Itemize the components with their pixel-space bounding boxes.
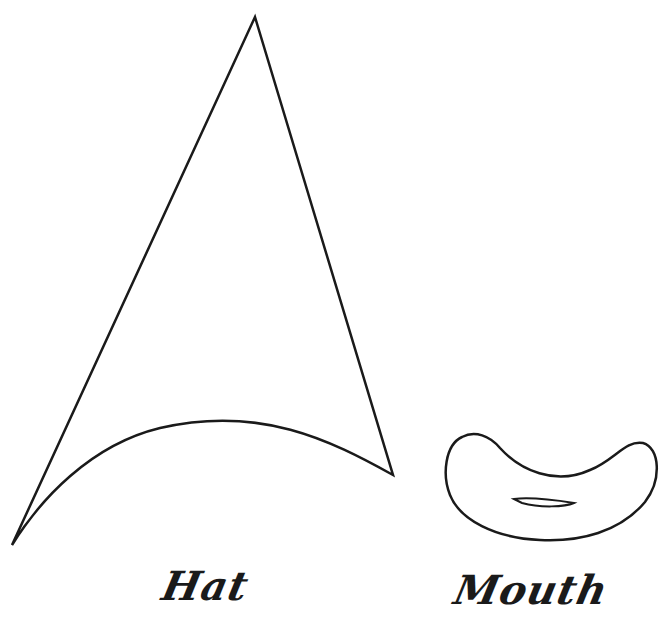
pattern-drawing	[0, 0, 664, 628]
hat-shape	[12, 17, 393, 545]
mouth-shape	[446, 434, 657, 540]
hat-label: Hat	[158, 562, 253, 609]
mouth-label: Mouth	[450, 566, 613, 613]
mouth-slit	[514, 498, 574, 506]
